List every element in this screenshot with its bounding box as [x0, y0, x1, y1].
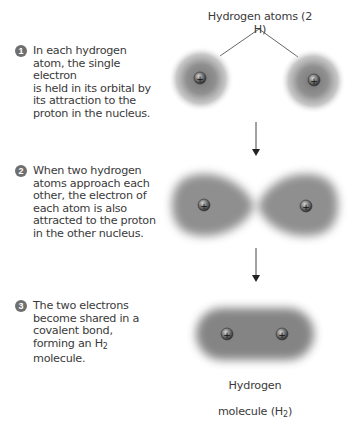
molecule-label: Hydrogen molecule (H2) — [205, 366, 305, 421]
step-2-text: When two hydrogen atoms approach each ot… — [33, 165, 165, 241]
step-3-text-before: The two electrons become shared in a cov… — [33, 299, 139, 350]
step-2: 2 When two hydrogen atoms approach each … — [15, 165, 165, 241]
step-1: 1 In each hydrogen atom, the single elec… — [15, 45, 165, 121]
step-1-text: In each hydrogen atom, the single electr… — [33, 45, 165, 121]
svg-text:+: + — [196, 74, 204, 84]
svg-text:+: + — [223, 330, 231, 340]
step-3-text: The two electrons become shared in a cov… — [33, 300, 165, 366]
proton-icon: + — [221, 328, 233, 340]
proton-icon: + — [308, 74, 320, 86]
svg-text:+: + — [200, 201, 208, 211]
svg-text:+: + — [302, 202, 310, 212]
step-3: 3 The two electrons become shared in a c… — [15, 300, 165, 366]
svg-text:+: + — [310, 76, 318, 86]
proton-icon: + — [276, 328, 288, 340]
step2-left-atom — [172, 174, 254, 236]
step-3-text-after: molecule. — [33, 352, 85, 365]
step2-right-atom — [258, 174, 338, 236]
molecule-label-close: ) — [288, 405, 292, 418]
proton-icon: + — [194, 72, 206, 84]
step-number-badge: 1 — [15, 45, 27, 57]
step-number-badge: 2 — [15, 165, 27, 177]
molecule-cloud — [196, 308, 314, 360]
svg-text:+: + — [278, 330, 286, 340]
subscript: 2 — [103, 342, 108, 351]
step-number-badge: 3 — [15, 300, 27, 312]
proton-icon: + — [300, 200, 312, 212]
molecule-label-line1: Hydrogen — [229, 379, 282, 392]
arrow-down-icon — [252, 248, 260, 282]
molecule-label-text: molecule (H — [218, 405, 283, 418]
molecule-label-line2: molecule (H2) — [218, 405, 292, 418]
proton-icon: + — [198, 199, 210, 211]
arrow-down-icon — [252, 122, 260, 156]
atoms-label: Hydrogen atoms (2 H) — [205, 10, 315, 36]
